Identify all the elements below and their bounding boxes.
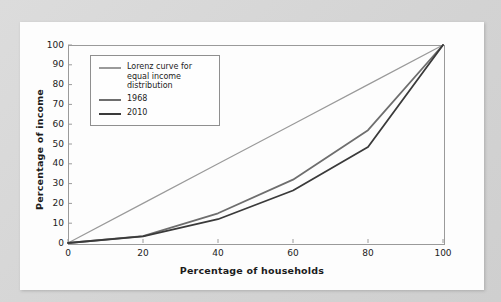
- legend-entry: 2010: [99, 108, 209, 119]
- x-tick-label: 20: [130, 248, 156, 258]
- page-background: Percentage of income Percentage of house…: [0, 0, 501, 302]
- y-tick-label: 30: [38, 178, 64, 188]
- lorenz-curve-chart: Percentage of income Percentage of house…: [20, 22, 484, 290]
- x-tick-label: 60: [280, 248, 306, 258]
- x-tick-label: 80: [355, 248, 381, 258]
- y-tick-label: 10: [38, 218, 64, 228]
- y-tick-label: 0: [38, 238, 64, 248]
- y-tick-label: 80: [38, 79, 64, 89]
- x-tick-label: 100: [430, 248, 456, 258]
- x-tick-label: 0: [55, 248, 81, 258]
- y-tick-label: 60: [38, 119, 64, 129]
- figure-card: Percentage of income Percentage of house…: [20, 22, 484, 290]
- legend-line-swatch: [99, 109, 121, 119]
- legend-line-swatch: [99, 63, 121, 73]
- y-tick-label: 50: [38, 139, 64, 149]
- x-axis-title: Percentage of households: [20, 265, 484, 276]
- x-tick-label: 40: [205, 248, 231, 258]
- y-tick-label: 90: [38, 59, 64, 69]
- y-tick-label: 100: [38, 40, 64, 50]
- legend-line-swatch: [99, 95, 121, 105]
- legend-label: Lorenz curve for equal income distributi…: [127, 62, 209, 91]
- y-tick-label: 70: [38, 99, 64, 109]
- y-tick-label: 20: [38, 198, 64, 208]
- legend-entry: 1968: [99, 94, 209, 105]
- legend-label: 2010: [127, 108, 147, 118]
- y-tick-label: 40: [38, 158, 64, 168]
- legend-entry: Lorenz curve for equal income distributi…: [99, 62, 209, 91]
- legend-label: 1968: [127, 94, 147, 104]
- chart-legend: Lorenz curve for equal income distributi…: [90, 55, 220, 126]
